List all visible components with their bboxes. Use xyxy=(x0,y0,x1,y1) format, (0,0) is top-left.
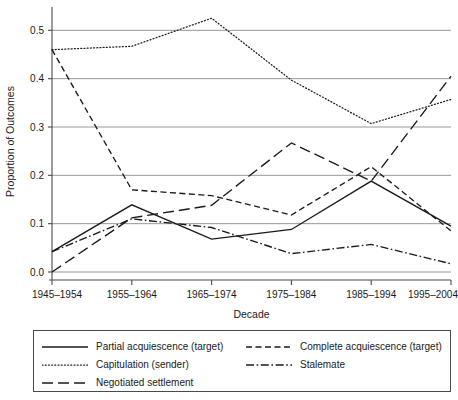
solid-line-icon xyxy=(42,341,88,353)
x-tick-label-1: 1955–1964 xyxy=(107,289,157,300)
legend-item: Negotiated settlement xyxy=(42,374,193,391)
dotted-line-icon xyxy=(42,359,88,371)
y-tick-label-5: 0.5 xyxy=(30,25,44,36)
x-tick-label-0: 1945–1954 xyxy=(32,289,82,300)
dash-dot-line-icon xyxy=(246,359,292,371)
series-line-3 xyxy=(52,219,451,264)
legend-item-label: Stalemate xyxy=(300,359,345,371)
series-line-4 xyxy=(52,76,451,272)
x-tick-label-5: 1995–2004 xyxy=(408,289,458,300)
axis-lines xyxy=(49,7,451,280)
gridlines xyxy=(52,30,451,272)
legend-item-label: Negotiated settlement xyxy=(96,377,193,389)
x-tick-label-4: 1985–1994 xyxy=(346,289,396,300)
x-axis-title: Decade xyxy=(233,308,269,320)
plot-area: 0.00.10.20.30.40.5 1945–19541955–1964196… xyxy=(0,0,458,330)
long-dashed-line-icon xyxy=(42,377,88,389)
x-axis-ticks: 1945–19541955–19641965–19741975–19841985… xyxy=(32,280,458,300)
y-axis-title: Proportion of Outcomes xyxy=(4,86,16,197)
series-line-1 xyxy=(52,50,451,231)
legend-item-label: Partial acquiescence (target) xyxy=(96,341,223,353)
y-tick-label-0: 0.0 xyxy=(30,267,44,278)
series-line-2 xyxy=(52,18,451,123)
legend-item-label: Capitulation (sender) xyxy=(96,359,189,371)
x-axis-title-group: Decade xyxy=(233,308,269,320)
x-tick-label-3: 1975–1984 xyxy=(266,289,316,300)
legend-item: Complete acquiescence (target) xyxy=(246,338,442,355)
legend-item: Partial acquiescence (target) xyxy=(42,338,223,355)
legend: Partial acquiescence (target)Capitulatio… xyxy=(33,330,451,392)
y-tick-label-2: 0.2 xyxy=(30,170,44,181)
dashed-line-icon xyxy=(246,341,292,353)
legend-item: Stalemate xyxy=(246,356,345,373)
legend-item-label: Complete acquiescence (target) xyxy=(300,341,442,353)
y-tick-label-1: 0.1 xyxy=(30,218,44,229)
legend-item: Capitulation (sender) xyxy=(42,356,189,373)
legend-grid: Partial acquiescence (target)Capitulatio… xyxy=(34,331,450,391)
line-chart-figure: 0.00.10.20.30.40.5 1945–19541955–1964196… xyxy=(0,0,458,400)
data-series-group xyxy=(52,18,451,272)
x-tick-label-2: 1965–1974 xyxy=(187,289,237,300)
y-tick-label-3: 0.3 xyxy=(30,122,44,133)
y-tick-label-4: 0.4 xyxy=(30,73,44,84)
y-axis-title-group: Proportion of Outcomes xyxy=(4,86,16,197)
y-axis-ticks: 0.00.10.20.30.40.5 xyxy=(30,25,52,278)
